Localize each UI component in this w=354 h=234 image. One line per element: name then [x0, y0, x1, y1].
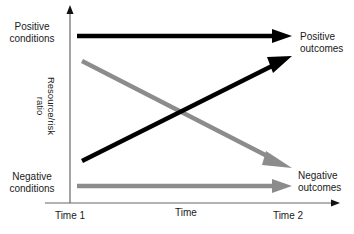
x-axis-label: Time	[166, 207, 206, 219]
label-line: Negative	[4, 171, 60, 183]
x-axis-end-label: Time 2	[266, 210, 310, 222]
label-line: Positive	[4, 21, 60, 33]
label-line: Positive	[300, 31, 343, 43]
label-negative-outcomes: Negative outcomes	[298, 170, 341, 194]
label-line: Resource/risk	[46, 76, 57, 136]
label-line: ratio	[35, 76, 46, 136]
x-axis-arrow-icon	[331, 200, 340, 207]
label-line: Negative	[298, 170, 341, 182]
label-positive-conditions: Positive conditions	[4, 21, 60, 45]
label-line: conditions	[4, 33, 60, 45]
resource-risk-diagram: Positive conditions Negative conditions …	[0, 0, 354, 234]
x-axis	[45, 200, 340, 207]
label-negative-conditions: Negative conditions	[4, 171, 60, 195]
label-line: conditions	[4, 183, 60, 195]
label-positive-outcomes: Positive outcomes	[300, 31, 343, 55]
label-line: outcomes	[300, 43, 343, 55]
y-axis-arrow-icon	[67, 5, 74, 14]
y-axis-label: Resource/risk ratio	[35, 76, 57, 136]
y-axis	[67, 5, 74, 203]
x-axis-start-label: Time 1	[48, 210, 92, 222]
label-line: outcomes	[298, 182, 341, 194]
arrow-negative-to-positive	[82, 56, 292, 161]
arrow-negative-to-negative	[77, 179, 292, 193]
arrow-positive-to-positive	[77, 29, 292, 43]
arrow-positive-to-negative	[82, 61, 292, 168]
